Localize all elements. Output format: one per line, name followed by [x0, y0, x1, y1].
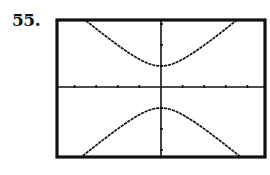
- axes: [57, 20, 265, 157]
- calculator-graph-window: [0, 0, 270, 175]
